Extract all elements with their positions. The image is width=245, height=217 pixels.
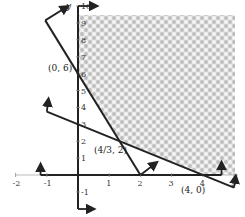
x-tick-label: 2: [137, 179, 142, 188]
x-tick-label: -2: [13, 179, 21, 188]
point-label-0-6: (0, 6): [48, 63, 72, 73]
feasible-region-diagram: -2-112345-112345678910 y (0, 6) (4/3, 2)…: [0, 0, 245, 217]
y-tick-label: 4: [81, 103, 86, 112]
y-tick-label: 7: [81, 53, 86, 62]
x-tick-label: 3: [169, 179, 174, 188]
x-tick-label: 1: [106, 179, 111, 188]
point-label-4-0: (4, 0): [181, 185, 205, 195]
y-tick-label: 6: [81, 70, 86, 79]
y-tick-label: 1: [81, 154, 86, 163]
normal-arrow-line-2: [47, 100, 49, 112]
x-tick-label: -1: [44, 179, 52, 188]
point-label-4-3-2: (4/3, 2): [94, 145, 127, 155]
normal-arrow-line-1: [45, 7, 67, 21]
normal-arrow-line-1-base: [140, 163, 156, 175]
y-tick-label: 5: [81, 87, 86, 96]
y-tick-label: 8: [81, 36, 86, 45]
y-tick-label: 9: [81, 19, 86, 28]
y-tick-label: 2: [81, 137, 86, 146]
y-tick-label: -1: [81, 188, 89, 197]
y-axis-label: y: [65, 1, 72, 11]
